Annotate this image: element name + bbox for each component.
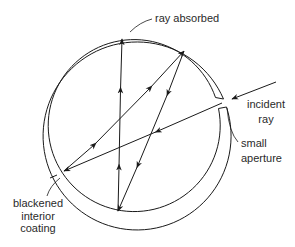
ray-segment-4 — [118, 39, 122, 211]
label-aperture-line2: aperture — [241, 152, 282, 165]
ray-segment-2 — [64, 51, 184, 171]
label-small-aperture: small aperture — [241, 137, 282, 164]
label-incident-ray: incident ray — [244, 98, 288, 125]
ray-segment-3 — [118, 51, 184, 211]
incident-ray — [232, 82, 276, 99]
label-coating-line1: blackened — [10, 197, 66, 210]
label-aperture-line1: small — [241, 137, 282, 150]
label-incident-line1: incident — [244, 98, 288, 111]
cavity-wall — [43, 40, 231, 230]
aperture-cap-bottom — [219, 107, 227, 109]
inner-wall-arc — [48, 40, 220, 212]
label-coating-line2: interior — [10, 210, 66, 223]
outer-wall-arc — [43, 42, 231, 230]
ray-segment-1 — [64, 103, 222, 171]
ray-path — [64, 39, 276, 211]
label-ray-absorbed: ray absorbed — [155, 12, 219, 25]
label-incident-line2: ray — [244, 113, 288, 126]
coating-cap-left — [50, 175, 57, 178]
leader-ray-absorbed — [130, 19, 152, 32]
label-coating-line3: coating — [10, 222, 66, 235]
aperture-cap-top — [216, 98, 224, 100]
leader-lines — [47, 19, 238, 196]
label-blackened-coating: blackened interior coating — [10, 197, 66, 235]
